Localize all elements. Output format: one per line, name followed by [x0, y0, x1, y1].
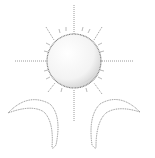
ray-bottom-left: [48, 83, 55, 92]
sun-and-moons-illustration: sun with two crescent moons: [0, 0, 155, 158]
ray-bottom-right: [94, 83, 102, 94]
right-crescent-moon-icon: [91, 100, 140, 149]
illustration-svg: [0, 0, 155, 158]
ray-top-left: [46, 27, 54, 40]
left-crescent-moon-icon: [8, 100, 58, 148]
ray-top-right: [94, 27, 102, 40]
sun-icon: [47, 34, 101, 88]
